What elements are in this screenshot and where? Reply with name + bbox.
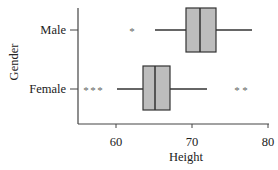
female-box [143,66,170,110]
female-outlier: * [242,84,248,96]
male-box [186,8,216,52]
y-axis-title: Gender [7,43,21,81]
x-axis-title: Height [169,150,204,164]
female-outlier: * [234,84,240,96]
category-label-male: Male [40,23,66,37]
x-tick-label-70: 70 [186,135,199,149]
boxplot-chart: Male Female 60 70 80 Height Gender * * *… [0,0,278,170]
female-boxplot: * * * * * [83,66,248,110]
male-boxplot: * [129,8,252,52]
female-outlier: * [83,84,89,96]
x-tick-label-80: 80 [262,135,275,149]
female-outlier: * [90,84,96,96]
male-outlier: * [129,25,135,37]
x-tick-label-60: 60 [110,135,123,149]
female-outlier: * [97,84,103,96]
category-label-female: Female [29,82,66,96]
